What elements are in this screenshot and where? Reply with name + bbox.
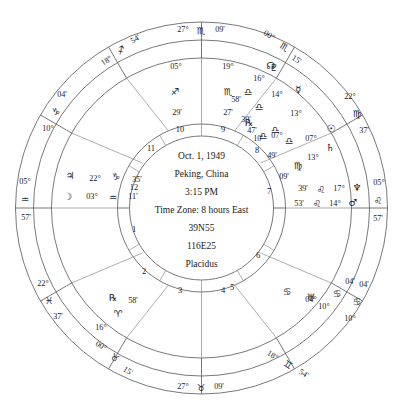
house5-minute: 54'	[297, 367, 310, 380]
outer-label-house6: 04' ♋ 10°	[344, 280, 369, 323]
tick-11	[160, 135, 166, 145]
house11-degree: 18°	[99, 54, 113, 68]
house2-minute: 37'	[53, 312, 63, 321]
neptune-degree: 17°	[333, 184, 344, 193]
neptune-minute: 39'	[298, 184, 308, 193]
venus-degree: 13°	[290, 109, 301, 118]
planet-placements: ☊ 58' ♎ 16° ♇ 39' ♎ 14° ☿ 10' ♎ 13°	[64, 60, 362, 311]
center-line-place: Peking, China	[175, 169, 230, 179]
dsc-minute: 57'	[373, 214, 383, 223]
outer-label-house8: 22° ♍ 37'	[344, 92, 369, 135]
mc-degree: 27°	[177, 25, 188, 34]
aquarius-icon: ♒	[21, 194, 30, 205]
tick-5	[238, 271, 244, 281]
neptune-icon: ♆	[353, 182, 362, 193]
house-number-3: 3	[178, 285, 182, 295]
planet-mars: 53' ♌ 14° ♂	[294, 197, 357, 209]
saturn-icon: ♄	[326, 142, 335, 153]
uranus-icon: ♅	[307, 292, 316, 303]
jupiter-icon: ♃	[66, 170, 75, 181]
house-number-2: 2	[142, 266, 146, 276]
center-line-lat: 39N55	[189, 223, 215, 233]
retrograde-icon-2: ℞	[109, 292, 118, 303]
cuspline-6	[261, 253, 332, 283]
taurus-icon-2: ♉	[108, 351, 121, 365]
cusp10-minute: 29'	[172, 108, 182, 117]
cusp3-minute: 58'	[128, 296, 138, 305]
moon-icon: ☽	[64, 191, 73, 202]
center-line-lon: 116E25	[187, 241, 216, 251]
pluto-minute: 58'	[231, 95, 241, 104]
planet-neptune: 39' ♌ 17° ♆	[298, 182, 361, 195]
cancer-icon: ♋	[353, 296, 362, 307]
outer-label-house11: 18° ♐ 54'	[98, 32, 144, 67]
cusp9-minute: 27'	[223, 108, 233, 117]
mercury-icon: ☿	[295, 84, 301, 95]
uranus-minute: 04'	[345, 277, 355, 286]
tick-9	[238, 135, 244, 145]
house-number-1: 1	[132, 224, 136, 234]
mc-minute: 09'	[215, 25, 225, 34]
libra-icon-venus: ♎	[271, 124, 280, 135]
cusp10-degree: 05°	[170, 62, 181, 71]
cuspline-12	[72, 133, 143, 163]
ic-minute: 09'	[214, 382, 224, 391]
outer-label-asc: 05° ♒ 57'	[19, 177, 31, 222]
outer-label-dsc: 05° ♌ 57'	[373, 178, 385, 223]
cuspline-5	[235, 285, 277, 338]
pluto-icon: ♇	[270, 62, 279, 73]
house12-minute: 04'	[57, 90, 67, 99]
sun-minute: 49'	[267, 151, 277, 160]
jupiter-minute: 35'	[132, 175, 142, 184]
cusp3-degree: 16°	[95, 323, 106, 332]
asc-degree: 05°	[19, 177, 30, 186]
tick-12	[130, 166, 140, 172]
center-line-date: Oct. 1, 1949	[178, 151, 225, 161]
planet-moon: ☽ 03° ♒ 11'	[64, 191, 139, 203]
scorpio-icon: ♏	[197, 25, 206, 36]
scorpio-icon-2: ♏	[278, 40, 291, 54]
house-number-5: 5	[230, 282, 234, 292]
planet-saturn: 09' ♍ 13° ♄	[279, 142, 334, 181]
center-line-system: Placidus	[185, 259, 217, 269]
aries-icon: ♈	[114, 308, 123, 319]
taurus-icon: ♉	[197, 382, 206, 393]
venus-minute: 10'	[253, 134, 263, 143]
ic-degree: 27°	[177, 382, 188, 391]
virgo-icon: ♍	[353, 108, 362, 119]
house6-minute: 04'	[359, 280, 369, 289]
house8-degree: 22°	[344, 92, 355, 101]
sagittarius-icon-2: ♐	[171, 86, 180, 97]
saturn-minute: 09'	[279, 172, 289, 181]
house-number-11: 11	[147, 143, 155, 153]
house6-degree: 10°	[344, 314, 355, 323]
cancer-icon-uranus: ♋	[333, 288, 342, 299]
outer-label-house2: 22° ♓ 37'	[37, 279, 63, 321]
house-number-6: 6	[256, 250, 260, 260]
libra-icon-pluto: ♎	[244, 86, 253, 97]
house-number-7: 7	[267, 186, 271, 196]
house-number-9: 9	[221, 124, 225, 134]
center-line-timezone: Time Zone: 8 hours East	[155, 205, 249, 215]
retrograde-icon-mercury: ℞	[245, 117, 254, 128]
house3-minute: 15'	[121, 364, 134, 377]
house12-degree: 10°	[42, 124, 53, 133]
mars-icon: ♂	[349, 197, 358, 208]
aquarius-icon-moon: ♒	[109, 192, 118, 203]
uranus-degree: 10°	[318, 302, 329, 311]
natal-chart-wheel: Oct. 1, 1949 Peking, China 3:15 PM Time …	[0, 0, 403, 417]
outer-label-mc: 27° ♏ 09'	[177, 25, 225, 36]
gemini-icon: ♊	[282, 358, 295, 372]
pisces-icon: ♓	[45, 295, 54, 306]
mars-minute: 53'	[294, 199, 304, 208]
cusp9-degree: 19°	[222, 62, 233, 71]
house2-degree: 22°	[37, 279, 48, 288]
pluto-degree: 16°	[253, 74, 264, 83]
asc-minute: 57'	[21, 213, 31, 222]
tick-3	[160, 271, 166, 281]
tick-8	[264, 166, 274, 172]
sun-icon: ☉	[327, 123, 336, 134]
cuspline-2	[72, 253, 143, 283]
planet-uranus: ♅ 10° ♋ 04'	[307, 277, 356, 311]
house5-degree: 18°	[265, 348, 279, 362]
